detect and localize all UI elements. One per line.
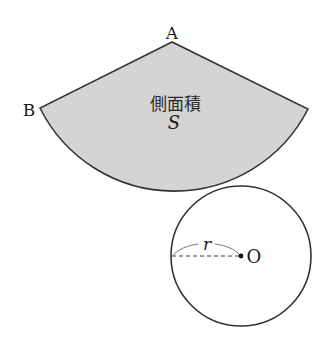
vertex-b-label: B [23, 100, 36, 120]
lateral-area-label: 側面積 [150, 94, 201, 114]
center-label: O [247, 246, 262, 267]
center-point [239, 254, 244, 259]
radius-label: r [203, 234, 212, 254]
apex-label: A [165, 23, 179, 43]
lateral-area-symbol: S [168, 112, 180, 133]
cone-net-diagram: A B 側面積 S r O [0, 0, 329, 348]
